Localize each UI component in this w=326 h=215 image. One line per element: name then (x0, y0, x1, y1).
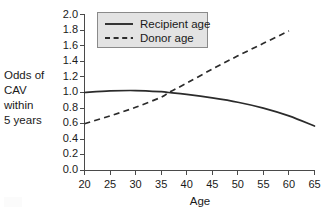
y-tick-label: 1.2 (63, 70, 78, 82)
y-tick-label: 2.0 (63, 8, 78, 20)
legend-label-recipient-age: Recipient age (140, 18, 210, 30)
x-axis-tick-labels: 20 25 30 35 40 45 50 55 60 65 (78, 178, 320, 190)
odds-of-cav-line-chart: Odds of CAV within 5 years 2.0 1.8 1.6 1… (0, 0, 326, 215)
x-tick-label: 35 (155, 178, 167, 190)
chart-figure: Odds of CAV within 5 years 2.0 1.8 1.6 1… (0, 0, 326, 215)
y-tick-label: 0.2 (63, 147, 78, 159)
x-tick-label: 30 (129, 178, 141, 190)
y-tick-label: 1.4 (63, 54, 78, 66)
y-axis-title: Odds of CAV within 5 years (3, 69, 45, 126)
x-tick-label: 65 (308, 178, 320, 190)
x-tick-label: 20 (78, 178, 90, 190)
legend-label-donor-age: Donor age (140, 32, 194, 44)
y-tick-label: 1.8 (63, 23, 78, 35)
x-tick-label: 40 (181, 178, 193, 190)
y-tick-label: 0.8 (63, 101, 78, 113)
y-axis-tick-labels: 2.0 1.8 1.6 1.4 1.2 1.0 0.8 0.6 0.4 0.2 … (63, 8, 78, 175)
y-tick-label: 1.6 (63, 39, 78, 51)
y-tick-label: 0.0 (63, 163, 78, 175)
chart-legend: Recipient age Donor age (98, 13, 211, 48)
x-tick-label: 60 (283, 178, 295, 190)
page-corner-artifact (4, 197, 22, 207)
x-tick-label: 45 (206, 178, 218, 190)
x-axis-title: Age (190, 195, 210, 207)
x-tick-label: 55 (257, 178, 269, 190)
y-axis-title-line-3: within (3, 99, 33, 111)
y-axis-title-line-1: Odds of (4, 69, 45, 81)
x-axis-tick-marks (85, 171, 315, 176)
x-tick-label: 50 (232, 178, 244, 190)
series-line-recipient-age (85, 91, 315, 127)
y-tick-label: 1.0 (63, 85, 78, 97)
y-tick-label: 0.6 (63, 116, 78, 128)
y-tick-label: 0.4 (63, 132, 78, 144)
y-axis-title-line-2: CAV (4, 84, 27, 96)
y-axis-title-line-4: 5 years (4, 114, 42, 126)
x-tick-label: 25 (104, 178, 116, 190)
